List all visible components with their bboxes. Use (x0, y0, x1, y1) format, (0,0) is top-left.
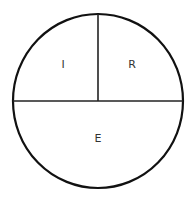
region-label-e: E (95, 132, 102, 145)
region-label-r: R (128, 58, 136, 71)
region-label-i: I (61, 58, 64, 71)
circle-diagram: I R E (0, 0, 195, 212)
